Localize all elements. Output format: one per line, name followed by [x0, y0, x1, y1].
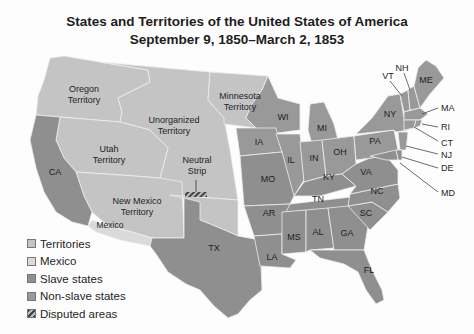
label-ms: MS — [287, 232, 301, 242]
label-me: ME — [419, 75, 433, 85]
label-il: IL — [287, 155, 295, 165]
label-al: AL — [312, 227, 323, 237]
label-unorganized-2: Territory — [158, 126, 191, 136]
label-tx: TX — [208, 243, 220, 253]
neutral-strip-hatch — [185, 192, 207, 197]
label-minnesota-2: Territory — [224, 102, 257, 112]
label-newmexico-2: Territory — [121, 207, 154, 217]
label-in: IN — [310, 153, 319, 163]
label-oregon-2: Territory — [68, 95, 101, 105]
label-mi: MI — [317, 123, 327, 133]
label-va: VA — [360, 167, 371, 177]
label-sc: SC — [360, 208, 373, 218]
label-utah-1: Utah — [99, 144, 118, 154]
label-oregon-1: Oregon — [69, 84, 99, 94]
label-minnesota-1: Minnesota — [219, 91, 261, 101]
legend-item-mexico: Mexico — [27, 253, 126, 271]
label-nh: NH — [396, 63, 409, 73]
label-mo: MO — [261, 174, 276, 184]
label-unorganized-1: Unorganized — [148, 115, 199, 125]
swatch-territories — [27, 239, 36, 248]
label-newmexico-1: New Mexico — [112, 196, 161, 206]
legend-label: Mexico — [40, 255, 76, 267]
legend-label: Territories — [40, 238, 90, 250]
label-neutral-1: Neutral — [182, 155, 211, 165]
swatch-slave-states — [27, 274, 36, 283]
legend-item-territories: Territories — [27, 235, 126, 253]
label-mexico: Mexico — [97, 220, 124, 230]
swatch-mexico — [27, 257, 36, 266]
legend: Territories Mexico Slave states Non-slav… — [27, 235, 126, 323]
label-ct: CT — [441, 138, 453, 148]
label-tn: TN — [312, 194, 324, 204]
legend-label: Slave states — [40, 273, 103, 285]
legend-item-disputed-areas: Disputed areas — [27, 305, 126, 323]
label-ma: MA — [441, 103, 455, 113]
label-vt: VT — [382, 71, 394, 81]
label-ri: RI — [441, 122, 450, 132]
label-oh: OH — [333, 147, 347, 157]
legend-item-non-slave-states: Non-slave states — [27, 288, 126, 306]
label-md: MD — [441, 188, 455, 198]
state-ct — [404, 120, 416, 130]
label-ga: GA — [340, 228, 353, 238]
label-ar: AR — [263, 208, 276, 218]
label-ca: CA — [49, 167, 62, 177]
label-ky: KY — [323, 172, 335, 182]
legend-label: Disputed areas — [40, 308, 117, 320]
legend-label: Non-slave states — [40, 290, 126, 302]
swatch-non-slave-states — [27, 292, 36, 301]
label-pa: PA — [369, 136, 380, 146]
label-nc: NC — [371, 186, 384, 196]
state-ny — [356, 94, 408, 134]
label-utah-2: Territory — [93, 155, 126, 165]
label-ia: IA — [255, 137, 264, 147]
state-fl — [310, 250, 384, 304]
label-ny: NY — [384, 109, 397, 119]
label-la: LA — [266, 252, 277, 262]
label-de: DE — [441, 163, 454, 173]
label-neutral-2: Strip — [188, 166, 207, 176]
label-nj: NJ — [441, 150, 452, 160]
swatch-disputed-areas — [27, 309, 36, 318]
label-fl: FL — [364, 265, 375, 275]
label-wi: WI — [278, 112, 289, 122]
legend-item-slave-states: Slave states — [27, 270, 126, 288]
state-nj — [398, 132, 408, 150]
